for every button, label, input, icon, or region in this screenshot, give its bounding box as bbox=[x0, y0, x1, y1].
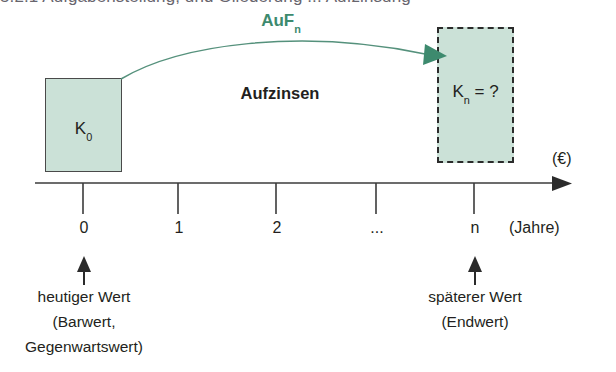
present-value-subscript: 0 bbox=[86, 131, 92, 143]
tick-label-0: 0 bbox=[64, 219, 104, 237]
present-value-annotation-line-3: Gegenwartswert) bbox=[0, 334, 209, 359]
tick-label-ellipsis: ... bbox=[357, 219, 397, 237]
center-caption: Aufzinsen bbox=[205, 84, 355, 103]
present-value-box: K0 bbox=[45, 78, 122, 172]
clipped-heading-text: 5.2.1 Aufgabenstellung, und Gliederung .… bbox=[0, 0, 616, 7]
future-value-question: = ? bbox=[470, 82, 499, 101]
currency-axis-label: (€) bbox=[552, 150, 572, 168]
present-value-label: K0 bbox=[46, 119, 121, 139]
future-value-annotation-line-2: (Endwert) bbox=[350, 309, 600, 334]
compounding-factor-label: AuFn bbox=[233, 11, 329, 31]
tick-label-2: 2 bbox=[257, 219, 297, 237]
future-value-box: Kn = ? bbox=[437, 27, 514, 163]
tick-label-n: n bbox=[455, 219, 495, 237]
present-value-annotation: heutiger Wert (Barwert, Gegenwartswert) bbox=[0, 284, 209, 359]
future-value-annotation: späterer Wert (Endwert) bbox=[350, 284, 600, 334]
future-value-label: Kn = ? bbox=[439, 82, 512, 102]
present-value-annotation-line-1: heutiger Wert bbox=[0, 284, 209, 309]
future-value-subscript: n bbox=[464, 94, 470, 106]
compounding-factor-subscript: n bbox=[294, 23, 301, 35]
present-value-annotation-line-2: (Barwert, bbox=[0, 309, 209, 334]
tick-label-1: 1 bbox=[159, 219, 199, 237]
future-value-annotation-line-1: späterer Wert bbox=[350, 284, 600, 309]
years-axis-label: (Jahre) bbox=[509, 219, 560, 237]
clipped-heading-row: 5.2.1 Aufgabenstellung, und Gliederung .… bbox=[0, 0, 616, 7]
timeline-diagram: 5.2.1 Aufgabenstellung, und Gliederung .… bbox=[0, 0, 616, 372]
